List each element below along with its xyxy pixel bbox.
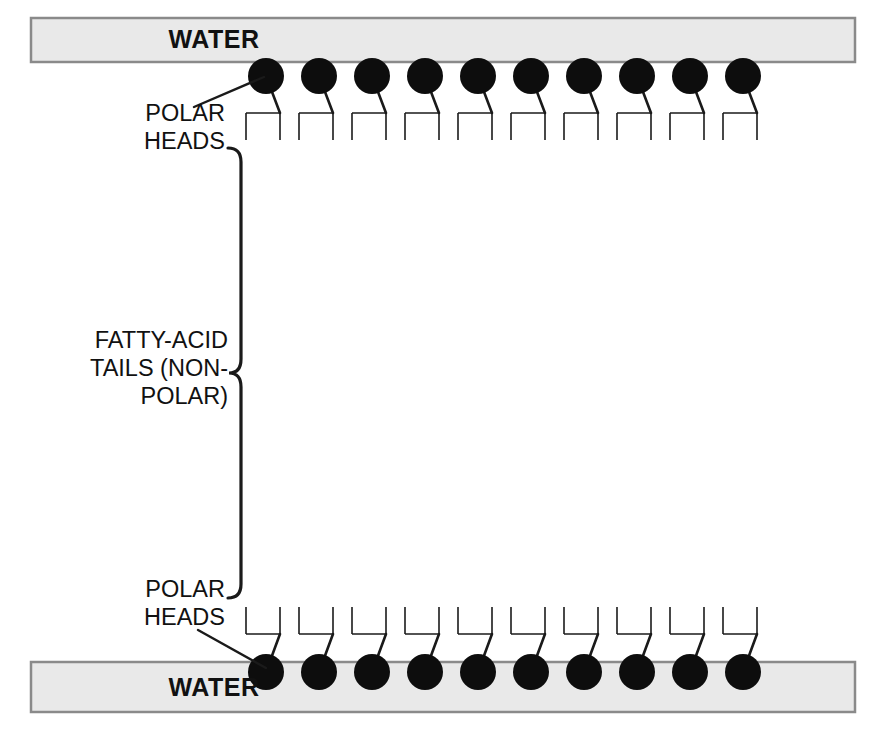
- polar-heads-top-label-line: POLAR: [145, 100, 225, 126]
- polar-head: [619, 654, 655, 690]
- water-bottom-label: WATER: [169, 673, 260, 701]
- polar-head: [566, 58, 602, 94]
- fatty-acid-tails-label-line: POLAR): [141, 383, 229, 409]
- polar-head: [248, 58, 284, 94]
- polar-head: [619, 58, 655, 94]
- polar-head: [672, 654, 708, 690]
- water-top: [31, 18, 855, 62]
- polar-head: [460, 58, 496, 94]
- polar-head: [301, 58, 337, 94]
- polar-head: [407, 58, 443, 94]
- polar-head: [672, 58, 708, 94]
- polar-head: [513, 654, 549, 690]
- polar-heads-bottom-label-line: POLAR: [145, 576, 225, 602]
- diagram-canvas: WATERWATERPOLARHEADSFATTY-ACIDTAILS (NON…: [0, 0, 883, 739]
- polar-head: [566, 654, 602, 690]
- polar-head: [725, 58, 761, 94]
- bilayer-figure: WATERWATERPOLARHEADSFATTY-ACIDTAILS (NON…: [0, 0, 883, 739]
- polar-heads-top-label-line: HEADS: [144, 128, 225, 154]
- polar-head: [513, 58, 549, 94]
- water-top-band: [31, 18, 855, 62]
- polar-head: [301, 654, 337, 690]
- polar-head: [725, 654, 761, 690]
- water-top-label: WATER: [169, 25, 260, 53]
- fatty-acid-tails-label-line: TAILS (NON-: [90, 355, 228, 381]
- polar-head: [354, 654, 390, 690]
- fatty-acid-tails-label-line: FATTY-ACID: [95, 327, 228, 353]
- polar-heads-bottom-label-line: HEADS: [144, 604, 225, 630]
- polar-head: [460, 654, 496, 690]
- polar-head: [407, 654, 443, 690]
- polar-head: [354, 58, 390, 94]
